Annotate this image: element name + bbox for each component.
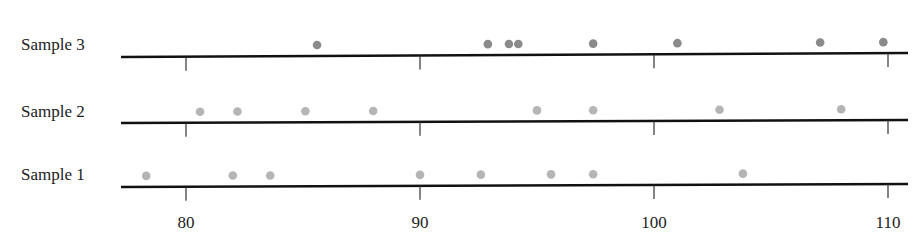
- dot-plot-chart: Sample 3Sample 2Sample 1 8090100110: [0, 0, 920, 245]
- data-point: [739, 169, 748, 178]
- axis-line: [121, 120, 908, 123]
- data-point: [266, 171, 275, 180]
- tick-label: 110: [876, 213, 901, 232]
- data-point: [477, 170, 486, 179]
- axis-line: [121, 184, 908, 187]
- row-label: Sample 3: [21, 35, 85, 54]
- sample-rows: Sample 3Sample 2Sample 1: [21, 35, 908, 201]
- data-point: [514, 40, 523, 49]
- data-point: [589, 170, 598, 179]
- data-point: [533, 106, 542, 115]
- data-point: [816, 38, 825, 47]
- data-point: [484, 40, 493, 49]
- data-point: [589, 39, 598, 48]
- sample-row-2: Sample 2: [21, 102, 908, 137]
- tick-label: 80: [178, 213, 195, 232]
- row-label: Sample 1: [21, 165, 85, 184]
- tick-label: 90: [412, 213, 429, 232]
- data-point: [416, 171, 425, 180]
- data-point: [673, 39, 682, 48]
- data-point: [547, 170, 556, 179]
- row-label: Sample 2: [21, 102, 85, 121]
- data-point: [196, 107, 205, 116]
- data-point: [233, 107, 242, 116]
- data-point: [715, 105, 724, 114]
- data-point: [229, 171, 238, 180]
- data-point: [301, 107, 310, 116]
- data-point: [837, 105, 846, 114]
- tick-label: 100: [641, 213, 667, 232]
- sample-row-1: Sample 1: [21, 165, 908, 201]
- data-point: [313, 41, 322, 50]
- data-point: [369, 107, 378, 116]
- data-point: [589, 106, 598, 115]
- data-point: [879, 38, 888, 47]
- sample-row-3: Sample 3: [21, 35, 908, 71]
- data-point: [505, 40, 514, 49]
- data-point: [142, 172, 151, 181]
- x-axis-tick-labels: 8090100110: [178, 213, 901, 232]
- axis-line: [121, 53, 908, 57]
